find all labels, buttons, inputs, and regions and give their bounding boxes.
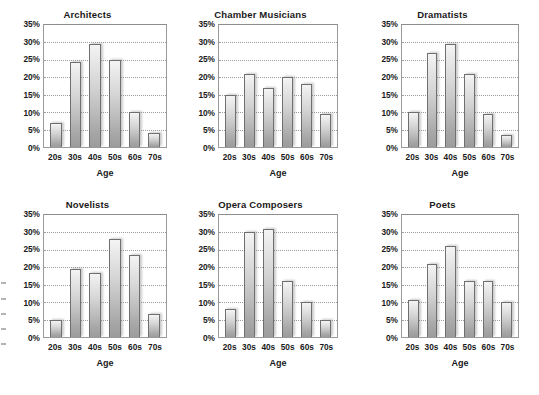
x-axis: 20s30s40s50s60s70s — [14, 148, 167, 162]
bar[interactable] — [129, 255, 140, 337]
bar-series — [44, 25, 166, 147]
y-tick-label: 35% — [198, 20, 215, 28]
bar[interactable] — [89, 44, 100, 147]
bar[interactable] — [50, 123, 61, 147]
bar-slot — [144, 25, 164, 147]
bar-series — [44, 215, 166, 337]
y-tick-label: 20% — [23, 73, 40, 81]
bar[interactable] — [225, 95, 236, 147]
y-tick-label: 25% — [198, 245, 215, 253]
y-tick-label: 5% — [28, 126, 40, 134]
bar[interactable] — [244, 232, 255, 337]
bar[interactable] — [501, 302, 512, 337]
x-tick-labels: 20s30s40s50s60s70s — [218, 148, 338, 162]
bar[interactable] — [445, 44, 456, 147]
chart-panel-chamber-musicians: Chamber Musicians 35%30%25%20%15%10%5%0%… — [175, 0, 346, 190]
bar-slot — [46, 215, 66, 337]
plot-area — [218, 24, 338, 148]
bar[interactable] — [427, 264, 438, 337]
y-tick-label: 5% — [386, 126, 398, 134]
chart-panel-grid: Architects 35%30%25%20%15%10%5%0% 20s30s… — [0, 0, 539, 395]
bar[interactable] — [501, 135, 512, 147]
x-tick-labels: 20s30s40s50s60s70s — [43, 338, 167, 352]
bar[interactable] — [109, 239, 120, 337]
bar[interactable] — [483, 114, 494, 147]
bar-slot — [278, 25, 297, 147]
x-tick-label: 50s — [278, 342, 297, 352]
y-tick-label: 15% — [23, 91, 40, 99]
x-tick-label: 70s — [498, 342, 517, 352]
bar[interactable] — [408, 112, 419, 147]
bar-slot — [497, 25, 516, 147]
x-tick-labels: 20s30s40s50s60s70s — [401, 148, 519, 162]
y-tick-label: 20% — [198, 263, 215, 271]
bar-slot — [221, 215, 240, 337]
y-axis: 35%30%25%20%15%10%5%0% — [189, 24, 218, 148]
y-tick-label: 20% — [381, 73, 398, 81]
y-tick-label: 30% — [23, 228, 40, 236]
x-tick-label: 50s — [278, 152, 297, 162]
panel-title: Dramatists — [346, 0, 539, 24]
bar[interactable] — [282, 281, 293, 337]
y-tick-label: 5% — [203, 126, 215, 134]
bar[interactable] — [282, 77, 293, 147]
x-tick-label: 20s — [220, 342, 239, 352]
bar-slot — [259, 25, 278, 147]
x-axis: 20s30s40s50s60s70s — [14, 338, 167, 352]
bar-slot — [316, 25, 335, 147]
bar[interactable] — [464, 281, 475, 337]
bar[interactable] — [263, 229, 274, 337]
bar[interactable] — [70, 62, 81, 147]
bar[interactable] — [464, 74, 475, 147]
bar[interactable] — [129, 112, 140, 147]
bar[interactable] — [301, 302, 312, 337]
x-axis: 20s30s40s50s60s70s — [189, 338, 338, 352]
x-tick-label: 40s — [441, 152, 460, 162]
bar-slot — [105, 25, 125, 147]
y-axis: 35%30%25%20%15%10%5%0% — [14, 214, 43, 338]
x-axis: 20s30s40s50s60s70s — [189, 148, 338, 162]
x-tick-label: 70s — [317, 152, 336, 162]
x-axis-title: Age — [372, 162, 519, 179]
bar-slot — [423, 215, 442, 337]
bar[interactable] — [445, 246, 456, 337]
chart-panel-novelists: Novelists 35%30%25%20%15%10%5%0% 20s30s4… — [0, 190, 175, 385]
bar[interactable] — [244, 74, 255, 147]
x-tick-label: 70s — [498, 152, 517, 162]
x-tick-label: 30s — [65, 342, 85, 352]
bar[interactable] — [225, 309, 236, 337]
x-tick-label: 30s — [422, 342, 441, 352]
bar-slot — [460, 215, 479, 337]
bar[interactable] — [483, 281, 494, 337]
plot-area — [401, 24, 519, 148]
y-tick-label: 25% — [381, 55, 398, 63]
bar[interactable] — [301, 84, 312, 147]
bar-slot — [441, 25, 460, 147]
x-tick-label: 60s — [297, 152, 316, 162]
bar-slot — [479, 25, 498, 147]
x-tick-label: 60s — [297, 342, 316, 352]
y-tick-label: 30% — [198, 38, 215, 46]
bar[interactable] — [70, 269, 81, 337]
bar[interactable] — [148, 133, 159, 147]
bar-slot — [423, 25, 442, 147]
bar[interactable] — [50, 320, 61, 337]
bar[interactable] — [148, 314, 159, 337]
bar[interactable] — [263, 88, 274, 147]
bar[interactable] — [408, 300, 419, 337]
y-tick-label: 20% — [23, 263, 40, 271]
bar[interactable] — [109, 60, 120, 147]
bar[interactable] — [89, 273, 100, 337]
y-tick-label: 10% — [381, 299, 398, 307]
bar[interactable] — [427, 53, 438, 147]
y-tick-label: 10% — [23, 299, 40, 307]
y-tick-label: 10% — [198, 299, 215, 307]
y-axis: 35%30%25%20%15%10%5%0% — [372, 214, 401, 338]
chart-body: 35%30%25%20%15%10%5%0% — [14, 214, 167, 338]
bar[interactable] — [320, 114, 331, 147]
y-tick-label: 25% — [381, 245, 398, 253]
x-tick-label: 50s — [105, 342, 125, 352]
bar[interactable] — [320, 320, 331, 337]
x-tick-label: 60s — [125, 342, 145, 352]
chart-body: 35%30%25%20%15%10%5%0% — [189, 214, 338, 338]
